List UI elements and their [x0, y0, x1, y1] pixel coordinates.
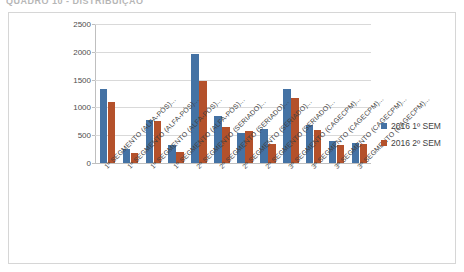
- legend-swatch-series-1: [381, 123, 387, 129]
- x-axis-tick-labels: 1º SEGMENTO (ALFA-PÓS)...1º SEGMENTO (AL…: [9, 165, 457, 263]
- bar-series-1[interactable]: [100, 89, 108, 163]
- legend-item[interactable]: 2016 2º SEM: [381, 136, 464, 150]
- y-axis-tick-mark: [92, 52, 95, 53]
- y-axis-tick-label: 1500: [73, 75, 91, 84]
- y-axis-tick-label: 1000: [73, 103, 91, 112]
- y-axis-tick-mark: [92, 163, 95, 164]
- document-header-text: QUADRO 10 - DISTRIBUIÇÃO: [6, 0, 144, 6]
- document-header: QUADRO 10 - DISTRIBUIÇÃO: [0, 0, 464, 9]
- y-axis-tick-label: 2000: [73, 47, 91, 56]
- y-axis-tick-label: 2500: [73, 20, 91, 29]
- y-axis-tick-label: 500: [78, 131, 91, 140]
- bar-group[interactable]: [96, 24, 119, 163]
- legend-item-label: 2016 2º SEM: [391, 138, 441, 148]
- legend-item-label: 2016 1º SEM: [391, 121, 441, 131]
- chart-container[interactable]: 05001000150020002500 1º SEGMENTO (ALFA-P…: [8, 12, 456, 264]
- chart-legend: 2016 1º SEM2016 2º SEM: [381, 119, 464, 153]
- bars-layer: [96, 24, 371, 163]
- legend-swatch-series-2: [381, 140, 387, 146]
- y-axis-tick-mark: [92, 107, 95, 108]
- y-axis-tick-mark: [92, 135, 95, 136]
- legend-item[interactable]: 2016 1º SEM: [381, 119, 464, 133]
- y-axis-tick-mark: [92, 80, 95, 81]
- plot-area: 05001000150020002500: [95, 24, 371, 163]
- y-axis-tick-mark: [92, 24, 95, 25]
